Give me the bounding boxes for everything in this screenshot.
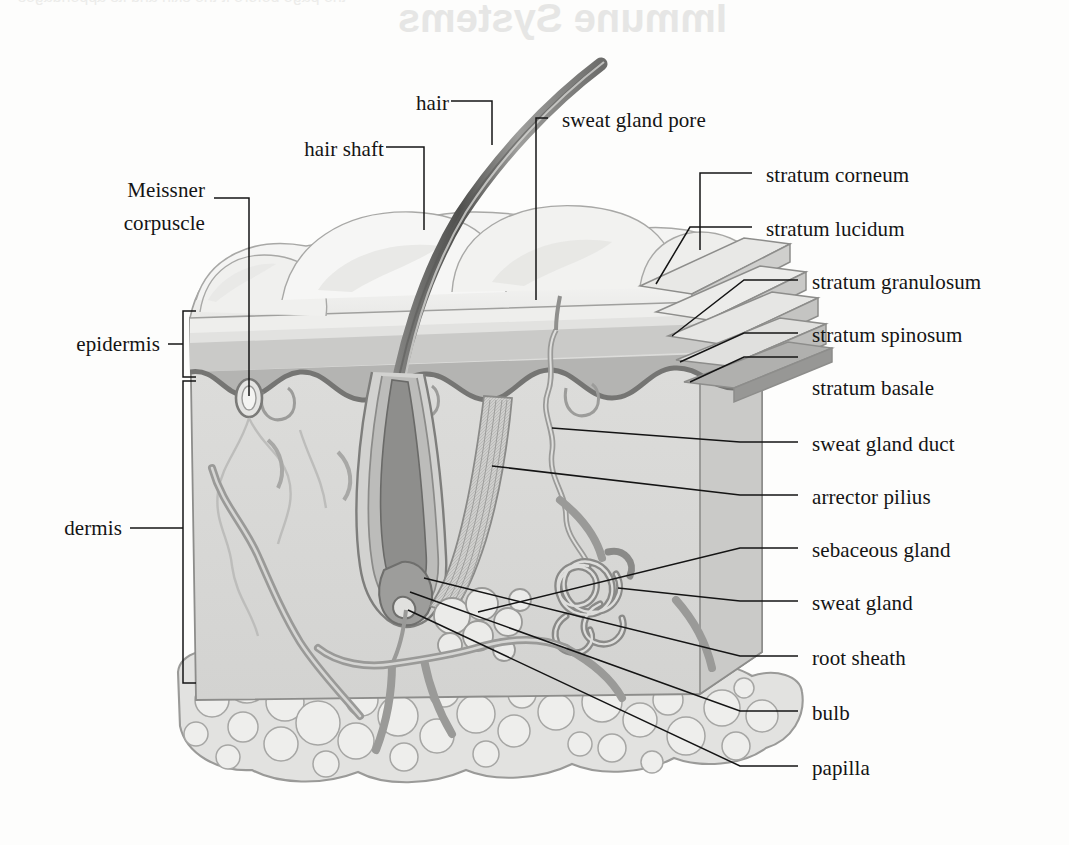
label-sweat-gland: sweat gland bbox=[812, 593, 913, 614]
label-stratum-lucidum: stratum lucidum bbox=[766, 219, 905, 240]
label-dermis: dermis bbox=[64, 518, 122, 539]
skin-cross-section-illustration bbox=[0, 0, 1069, 845]
label-stratum-corneum: stratum corneum bbox=[766, 165, 909, 186]
label-stratum-basale: stratum basale bbox=[812, 378, 934, 399]
skin-surface-ridges bbox=[190, 206, 762, 318]
label-sweat-gland-pore: sweat gland pore bbox=[562, 110, 706, 131]
label-hair: hair bbox=[416, 93, 449, 114]
label-papilla: papilla bbox=[812, 758, 870, 779]
label-meissner-corpuscle-line1: Meissner bbox=[127, 180, 205, 201]
label-bulb: bulb bbox=[812, 703, 850, 724]
label-arrector-pilius: arrector pilius bbox=[812, 487, 931, 508]
label-stratum-granulosum: stratum granulosum bbox=[812, 272, 981, 293]
label-stratum-spinosum: stratum spinosum bbox=[812, 325, 962, 346]
label-meissner-corpuscle-line2: corpuscle bbox=[124, 213, 205, 234]
label-epidermis: epidermis bbox=[76, 334, 160, 355]
label-hair-shaft: hair shaft bbox=[304, 139, 384, 160]
label-sweat-gland-duct: sweat gland duct bbox=[812, 434, 955, 455]
figure-canvas: the page before it the skin and its appe… bbox=[0, 0, 1069, 845]
label-sebaceous-gland: sebaceous gland bbox=[812, 540, 951, 561]
label-root-sheath: root sheath bbox=[812, 648, 906, 669]
